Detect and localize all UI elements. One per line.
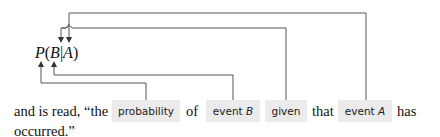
word-of: of: [186, 100, 198, 122]
reading-sentence: and is read, “the probability of event B…: [14, 100, 434, 122]
connector-b-to-event-b: [54, 64, 233, 100]
chip-event-a: event A: [338, 100, 392, 122]
sentence-line-2: occurred.”: [14, 120, 75, 137]
formula-function: P: [35, 44, 45, 61]
sentence-prefix: and is read, “the: [14, 100, 108, 122]
formula-condition: A: [63, 44, 73, 61]
sentence-line-1: and is read, “the probability of event B…: [14, 100, 434, 122]
connector-given-to-bar: [61, 26, 286, 103]
word-has: has: [397, 100, 416, 122]
formula-event: B: [50, 44, 60, 61]
formula-close-paren: ): [73, 44, 78, 61]
word-that: that: [312, 100, 334, 122]
chip-probability: probability: [112, 100, 180, 122]
chip-given: given: [265, 100, 307, 122]
conditional-probability-formula: P(B|A): [35, 44, 78, 62]
connector-p-to-probability: [41, 64, 146, 100]
chip-event-b: event B: [206, 100, 260, 122]
connector-event-a-to-a: [62, 13, 366, 102]
